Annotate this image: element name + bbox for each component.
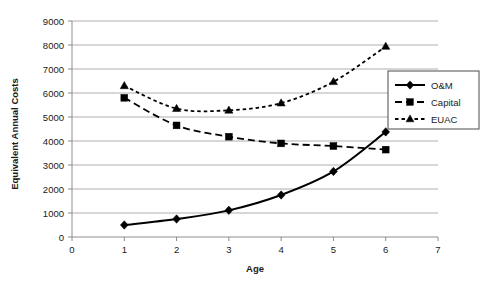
y-tick-label: 5000 xyxy=(43,112,64,123)
y-axis-title: Equivalent Annual Costs xyxy=(9,78,20,190)
x-tick-label: 1 xyxy=(122,244,127,255)
legend-label-euac: EUAC xyxy=(431,114,458,125)
line-chart: 0100020003000400050006000700080009000 01… xyxy=(0,0,489,282)
data-point-euac-6 xyxy=(382,42,390,49)
y-tick-label: 8000 xyxy=(43,40,64,51)
data-point-euac-1 xyxy=(120,82,128,89)
chart-container: 0100020003000400050006000700080009000 01… xyxy=(0,0,489,282)
data-series-layer xyxy=(120,42,390,229)
data-point-om-2 xyxy=(173,215,181,224)
data-point-capital-5 xyxy=(330,143,337,150)
y-tick-label: 7000 xyxy=(43,64,64,75)
x-axis-title: Age xyxy=(246,263,264,274)
x-tick-label: 5 xyxy=(331,244,336,255)
chart-legend: O&MCapitalEUAC xyxy=(388,71,479,129)
x-tick-label: 2 xyxy=(174,244,179,255)
legend-label-capital: Capital xyxy=(431,97,461,108)
y-tick-label: 2000 xyxy=(43,184,64,195)
x-tick-label: 7 xyxy=(435,244,440,255)
gridlines xyxy=(72,21,438,213)
data-point-capital-2 xyxy=(173,122,180,129)
y-tick-label: 0 xyxy=(59,232,64,243)
x-tick-label: 0 xyxy=(69,244,74,255)
y-tick-label: 4000 xyxy=(43,136,64,147)
y-tick-label: 9000 xyxy=(43,16,64,27)
y-tick-label: 1000 xyxy=(43,208,64,219)
legend-label-om: O&M xyxy=(431,80,453,91)
y-tick-label: 3000 xyxy=(43,160,64,171)
y-tick-label: 6000 xyxy=(43,88,64,99)
data-point-capital-6 xyxy=(382,146,389,153)
x-tick-label: 6 xyxy=(383,244,388,255)
data-point-om-4 xyxy=(277,191,285,200)
data-point-capital-4 xyxy=(278,140,285,147)
data-point-capital-3 xyxy=(225,133,232,140)
series-line-om xyxy=(124,132,385,225)
data-point-capital-1 xyxy=(121,94,128,101)
series-line-euac xyxy=(124,46,385,111)
x-tick-label: 3 xyxy=(226,244,231,255)
x-tick-label: 4 xyxy=(278,244,283,255)
y-axis-tick-labels: 0100020003000400050006000700080009000 xyxy=(43,16,64,243)
data-point-om-1 xyxy=(120,221,128,230)
legend-marker-capital xyxy=(407,99,414,106)
x-axis-tick-labels: 01234567 xyxy=(69,244,440,255)
series-line-capital xyxy=(124,98,385,150)
data-point-om-5 xyxy=(330,167,338,176)
